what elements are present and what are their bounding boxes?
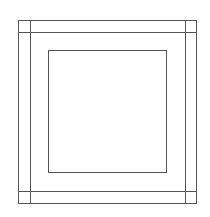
frame-diagram xyxy=(0,0,210,217)
outer-square xyxy=(19,21,197,204)
center-square xyxy=(49,51,167,173)
